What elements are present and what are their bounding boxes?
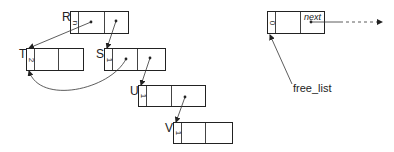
edge-r-s xyxy=(107,21,116,48)
edges-layer xyxy=(0,0,394,152)
edge-s-t xyxy=(29,59,126,90)
edge-r-t xyxy=(29,22,91,48)
diagram-canvas: R n T 2 S 1 U 1 V 1 0 next free_list xyxy=(0,0,394,152)
edge-free-list xyxy=(270,35,292,84)
edge-s-u xyxy=(141,58,150,85)
edge-u-v xyxy=(176,97,185,122)
